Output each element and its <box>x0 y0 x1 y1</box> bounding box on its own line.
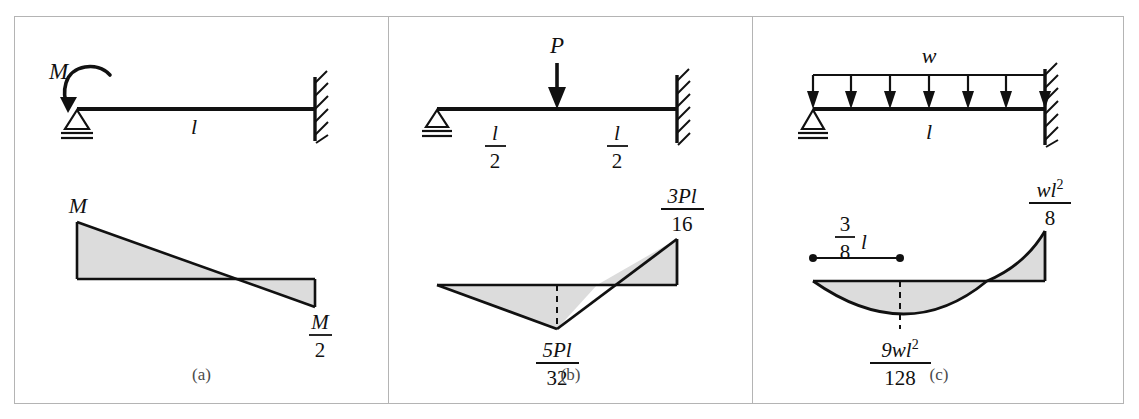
point-load-arrow-b <box>548 63 566 109</box>
distributed-load-c <box>807 75 1051 109</box>
panel-caption-c: (c) <box>753 365 1125 385</box>
load-arrow <box>1000 75 1012 109</box>
pin-support-b <box>422 110 452 136</box>
left-span-label-b: l 2 <box>485 121 506 173</box>
right-span-label-b: l 2 <box>607 121 628 173</box>
right-span-den-b: 2 <box>612 149 623 173</box>
span-label-c: l <box>926 119 932 144</box>
moment-right-label-num-a: M <box>310 310 330 334</box>
fixed-wall-b <box>677 69 690 145</box>
moment-load-label-a: M <box>48 59 70 84</box>
distributed-load-label-c: w <box>922 43 937 68</box>
dimension-label-c: 3 8 l <box>835 212 867 264</box>
pin-support-a <box>61 110 93 138</box>
load-arrow <box>923 75 935 109</box>
dimension-suffix-c: l <box>861 230 867 254</box>
moment-fill-positive-b <box>597 239 677 285</box>
panel-b: P l 2 l 2 3Pl <box>388 17 752 403</box>
load-arrow <box>845 75 857 109</box>
moment-end-num-b: 3Pl <box>666 184 696 208</box>
panel-a: M l M M 2 (a) <box>15 17 388 403</box>
moment-end-label-b: 3Pl 16 <box>661 184 704 236</box>
left-span-den-b: 2 <box>490 149 501 173</box>
svg-text:9wl2: 9wl2 <box>881 337 918 362</box>
moment-end-label-c: wl2 8 <box>1029 177 1071 230</box>
dimension-den-c: 8 <box>840 240 851 264</box>
figure-frame: M l M M 2 (a) <box>14 16 1124 404</box>
point-load-label-b: P <box>549 33 564 58</box>
moment-min-num-sup-c: 2 <box>912 337 919 352</box>
moment-right-label-den-a: 2 <box>315 338 326 362</box>
moment-end-den-c: 8 <box>1045 206 1056 230</box>
span-label-a: l <box>191 114 197 139</box>
moment-fill-negative-b <box>437 285 597 329</box>
svg-text:wl2: wl2 <box>1037 177 1064 202</box>
right-span-num-b: l <box>614 121 620 145</box>
moment-mid-num-b: 5Pl <box>542 338 571 362</box>
moment-min-num-c: 9wl <box>881 338 912 362</box>
load-arrow <box>962 75 974 109</box>
panel-caption-b: (b) <box>389 365 752 385</box>
moment-end-num-c: wl <box>1037 178 1057 202</box>
dimension-line-c <box>809 254 904 262</box>
pin-support-c <box>798 110 828 138</box>
load-arrow <box>1039 75 1051 109</box>
load-arrow <box>884 75 896 109</box>
fixed-wall-c <box>1045 63 1058 147</box>
panel-b-drawing: P l 2 l 2 3Pl <box>389 17 753 405</box>
load-arrow <box>807 75 819 109</box>
dimension-num-c: 3 <box>840 212 851 236</box>
moment-fill-positive-c <box>987 231 1045 281</box>
moment-left-label-a: M <box>68 193 89 218</box>
fixed-wall-a <box>315 71 328 143</box>
panel-caption-a: (a) <box>15 365 388 385</box>
panel-c: w l 3 8 l 9wl2 <box>752 17 1125 403</box>
panel-c-drawing: w l 3 8 l 9wl2 <box>753 17 1126 405</box>
moment-right-label-a: M 2 <box>309 310 332 362</box>
panel-a-drawing: M l M M 2 <box>15 17 388 405</box>
left-span-num-b: l <box>492 121 498 145</box>
moment-end-den-b: 16 <box>672 212 693 236</box>
moment-end-num-sup-c: 2 <box>1056 177 1063 192</box>
